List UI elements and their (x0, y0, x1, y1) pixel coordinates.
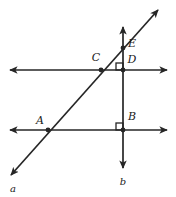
vertex-dot-e (121, 46, 126, 51)
point-label-e: E (127, 37, 136, 50)
vertex-dot-c (99, 68, 104, 73)
point-label-a: A (35, 114, 44, 127)
geometry-canvas: A B C D E a b (0, 0, 176, 197)
vertex-dot-d (121, 68, 126, 73)
line-label-a: a (10, 183, 16, 194)
geometry-figure: A B C D E a b (0, 0, 176, 197)
point-label-d: D (127, 53, 137, 66)
vertex-dot-a (46, 128, 51, 133)
point-label-c: C (92, 51, 101, 64)
line-label-b: b (120, 176, 126, 187)
transversal-line-a (11, 10, 158, 175)
vertex-dot-b (121, 128, 126, 133)
point-label-b: B (127, 110, 136, 123)
